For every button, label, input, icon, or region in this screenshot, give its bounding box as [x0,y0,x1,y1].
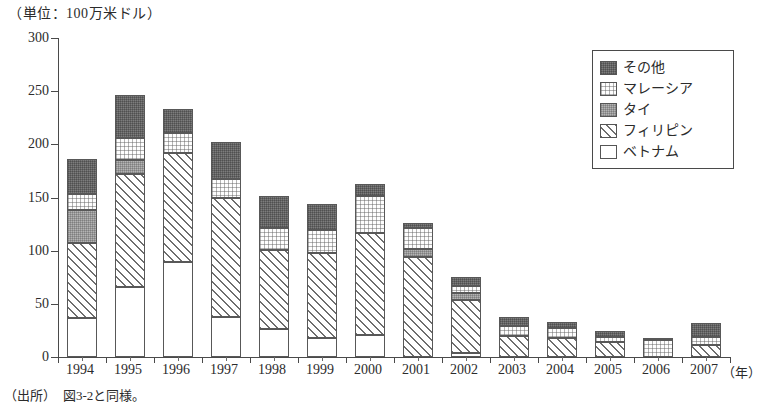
bar-segment-タイ [403,249,433,258]
bar-segment-その他 [67,159,97,194]
bar-segment-ベトナム [67,318,97,357]
legend-label: その他 [623,61,665,75]
x-label-1995: 1995 [104,362,152,378]
legend-row-その他: その他 [600,57,727,78]
bar-1994 [67,159,97,357]
x-label-2007: 2007 [680,362,728,378]
legend: その他マレーシアタイフィリピンベトナム [592,50,734,169]
y-tick-label: 50 [5,297,49,311]
x-tick-minor [418,357,419,361]
x-tick-minor [226,357,227,361]
bar-segment-その他 [643,338,673,340]
legend-swatch-icon [600,103,617,117]
x-tick-minor [514,357,515,361]
bar-segment-マレーシア [259,228,289,249]
y-tick-label: 0 [5,350,49,364]
bar-segment-フィリピン [547,338,577,357]
bar-1998 [259,196,289,357]
y-tick [51,198,58,199]
x-label-2001: 2001 [392,362,440,378]
bar-1999 [307,204,337,357]
legend-label: フィリピン [623,124,693,138]
x-tick-minor [610,357,611,361]
legend-label: マレーシア [623,82,693,96]
y-tick [51,91,58,92]
bar-segment-フィリピン [499,336,529,357]
bar-segment-フィリピン [163,153,193,263]
bar-segment-フィリピン [355,233,385,335]
bar-segment-その他 [211,142,241,179]
x-tick-minor [706,357,707,361]
bar-segment-フィリピン [595,342,625,357]
bar-segment-タイ [67,210,97,243]
y-tick [51,251,58,252]
x-label-2006: 2006 [632,362,680,378]
legend-row-フィリピン: フィリピン [600,120,727,141]
bar-segment-その他 [451,277,481,286]
bar-segment-ベトナム [211,317,241,357]
bar-segment-ベトナム [259,329,289,357]
x-tick-minor [466,357,467,361]
bar-segment-マレーシア [451,286,481,293]
x-label-1994: 1994 [56,362,104,378]
unit-caption: （単位：100万米ドル） [8,2,161,22]
x-label-2002: 2002 [440,362,488,378]
bar-1996 [163,109,193,357]
x-label-1996: 1996 [152,362,200,378]
bar-1995 [115,95,145,357]
bar-segment-ベトナム [355,335,385,357]
bar-segment-マレーシア [499,326,529,336]
y-tick [51,38,58,39]
bar-segment-フィリピン [259,250,289,330]
x-label-1999: 1999 [296,362,344,378]
bar-segment-フィリピン [691,345,721,357]
bar-segment-マレーシア [403,228,433,248]
x-label-2003: 2003 [488,362,536,378]
bar-segment-フィリピン [115,174,145,287]
bar-2004 [547,322,577,357]
bar-segment-ベトナム [451,353,481,357]
bar-2002 [451,277,481,357]
x-tick-minor [562,357,563,361]
bar-segment-マレーシア [355,196,385,232]
bar-2006 [643,338,673,357]
y-tick-label: 250 [5,84,49,98]
bar-segment-その他 [115,95,145,138]
legend-label: ベトナム [623,145,679,159]
bar-segment-その他 [259,196,289,228]
bar-segment-その他 [499,317,529,327]
bar-segment-その他 [691,323,721,337]
x-tick-minor [274,357,275,361]
y-tick-label: 200 [5,137,49,151]
legend-row-ベトナム: ベトナム [600,141,727,162]
legend-row-マレーシア: マレーシア [600,78,727,99]
bar-segment-ベトナム [115,287,145,357]
bar-segment-マレーシア [115,138,145,160]
bar-segment-フィリピン [211,198,241,317]
bar-segment-その他 [595,331,625,336]
bar-segment-マレーシア [595,337,625,342]
bar-segment-フィリピン [403,257,433,357]
y-tick [51,144,58,145]
bar-segment-その他 [403,223,433,228]
bar-segment-フィリピン [307,253,337,338]
legend-swatch-icon [600,124,617,138]
bar-segment-その他 [163,109,193,132]
x-tick-minor [658,357,659,361]
y-tick [51,304,58,305]
bar-2005 [595,331,625,357]
x-tick-minor [322,357,323,361]
bar-segment-マレーシア [163,133,193,153]
bar-2007 [691,323,721,357]
bar-2001 [403,223,433,357]
legend-swatch-icon [600,82,617,96]
bar-1997 [211,142,241,357]
bar-segment-タイ [451,293,481,299]
x-label-2004: 2004 [536,362,584,378]
bar-segment-ベトナム [163,262,193,357]
bar-segment-フィリピン [67,243,97,317]
bar-segment-タイ [115,160,145,174]
bar-segment-マレーシア [211,179,241,197]
legend-row-タイ: タイ [600,99,727,120]
x-tick-minor [130,357,131,361]
